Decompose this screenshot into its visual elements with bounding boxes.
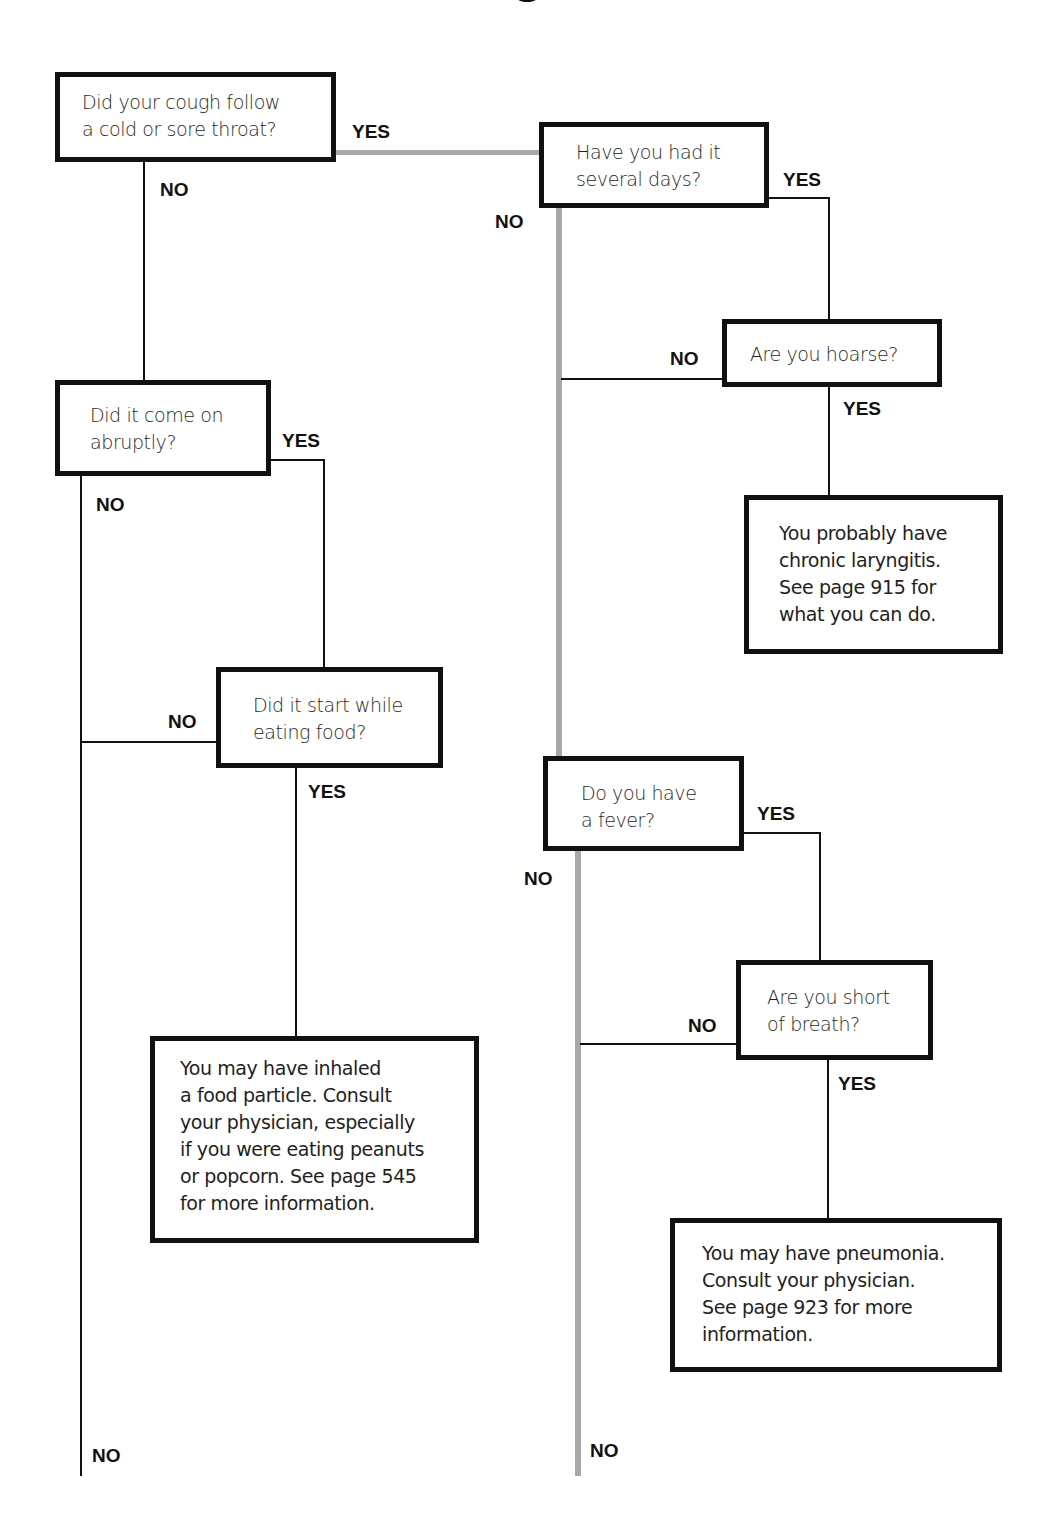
q7-yes-connector [827, 1057, 829, 1221]
q6-yes-v [819, 832, 821, 963]
yes-label: YES [843, 398, 881, 420]
question-text: Did it start while eating food? [253, 692, 403, 746]
q4-yes-h [268, 459, 325, 461]
q2-no-trunk [556, 205, 562, 758]
q7-no-connector [580, 1043, 739, 1045]
question-text: Do you have a fever? [581, 780, 696, 834]
yes-label: YES [757, 803, 795, 825]
q3-yes-connector [828, 384, 830, 498]
no-label: NO [96, 494, 125, 516]
q5-no-connector [81, 741, 218, 743]
yes-label: YES [783, 169, 821, 191]
q1-yes-connector [334, 150, 542, 155]
yes-label: YES [838, 1073, 876, 1095]
no-label: NO [160, 179, 189, 201]
question-text: Are you hoarse? [750, 341, 898, 368]
yes-label: YES [282, 430, 320, 452]
q2-yes-v [828, 197, 830, 321]
q4-no-trunk [80, 474, 82, 1476]
q3-no-connector [561, 378, 724, 380]
no-label: NO [495, 211, 524, 233]
title-fragment: g [0, 0, 1058, 2]
answer-text: You may have pneumonia. Consult your phy… [702, 1240, 945, 1348]
no-label: NO [590, 1440, 619, 1462]
question-text: Are you short of breath? [767, 984, 890, 1038]
question-text: Have you had it several days? [576, 139, 720, 193]
yes-label: YES [352, 121, 390, 143]
yes-label: YES [308, 781, 346, 803]
answer-text: You may have inhaled a food particle. Co… [180, 1055, 424, 1217]
question-text: Did your cough follow a cold or sore thr… [82, 89, 280, 143]
no-label: NO [524, 868, 553, 890]
q4-yes-v [323, 459, 325, 669]
no-label: NO [670, 348, 699, 370]
q5-yes-connector [295, 765, 297, 1039]
q1-no-connector [143, 160, 145, 382]
q6-no-trunk [575, 848, 581, 1476]
answer-text: You probably have chronic laryngitis. Se… [779, 520, 947, 628]
no-label: NO [168, 711, 197, 733]
q2-yes-h [767, 197, 830, 199]
q6-yes-h [741, 832, 821, 834]
no-label: NO [688, 1015, 717, 1037]
no-label: NO [92, 1445, 121, 1467]
question-text: Did it come on abruptly? [90, 402, 223, 456]
